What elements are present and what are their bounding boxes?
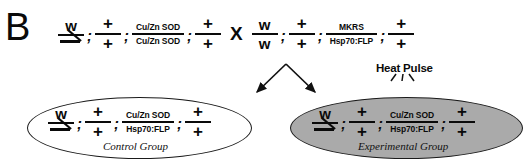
locus-separator: ; [121,27,132,44]
locus-chr2-wildtype: + + [349,104,375,140]
locus-chr2-wildtype: + + [85,104,111,140]
allele-bottom: + [453,124,471,140]
allele-bottom: + [89,124,107,140]
allele-top: Cu/Zn SOD [386,110,438,121]
experimental-group-caption: Experimental Group [358,140,448,152]
arrow-to-experimental-group [286,64,315,92]
allele-bottom: Hsp70:FLP [326,36,378,47]
allele-bottom: + [293,36,311,52]
locus-chr4-wildtype-right: + + [388,16,414,52]
locus-cuznsod-hsp70flp: Cu/Zn SOD Hsp70:FLP [122,110,174,135]
heat-pulse-tick-2 [402,74,403,81]
locus-separator: ; [111,115,122,132]
heat-pulse-tick-3 [409,74,414,81]
control-group-genotype: w ; + + ; Cu/Zn SOD Hsp70:FLP ; + + [48,104,211,140]
genetic-cross-figure: B w ; + + ; Cu/Zn SOD Cu/Zn SOD ; + + X [0,0,530,165]
locus-w-y: w [48,106,74,138]
locus-chr2-wildtype-right: + + [289,16,315,52]
arrow-to-control-group [257,64,286,92]
allele-top: w [255,17,275,32]
locus-cuznsod: Cu/Zn SOD Cu/Zn SOD [132,22,184,47]
allele-top: Cu/Zn SOD [132,22,184,33]
allele-bottom: Hsp70:FLP [386,124,438,135]
locus-cuznsod-hsp70flp: Cu/Zn SOD Hsp70:FLP [386,110,438,135]
allele-bottom: w [255,36,275,51]
locus-w-w: w w [252,17,278,51]
locus-separator: ; [74,115,85,132]
allele-bottom: + [353,124,371,140]
experimental-group-genotype: w ; + + ; Cu/Zn SOD Hsp70:FLP ; + + [312,104,475,140]
y-chromosome-icon [60,37,82,50]
allele-divider-bar [132,33,184,35]
locus-separator: ; [315,27,326,44]
locus-w-y: w [312,106,338,138]
locus-chr2-wildtype: + + [95,16,121,52]
locus-chr4-wildtype: + + [449,104,475,140]
heat-pulse-tick-1 [391,74,396,81]
control-group-caption: Control Group [103,140,168,152]
locus-separator: ; [375,115,386,132]
allele-top: Cu/Zn SOD [122,110,174,121]
locus-chr4-wildtype: + + [195,16,221,52]
locus-separator: ; [377,27,388,44]
allele-bottom: + [199,36,217,52]
allele-top: + [99,16,117,32]
allele-top: + [189,104,207,120]
allele-bottom: + [99,36,117,52]
allele-top: + [453,104,471,120]
allele-top: + [89,104,107,120]
allele-top: + [199,16,217,32]
allele-bottom: Cu/Zn SOD [132,36,184,47]
locus-separator: ; [174,115,185,132]
y-chromosome-icon [314,125,336,138]
locus-mkrs-hsp70flp: MKRS Hsp70:FLP [326,22,378,47]
allele-top: + [353,104,371,120]
locus-separator: ; [184,27,195,44]
allele-top: + [392,16,410,32]
allele-top: MKRS [335,22,368,33]
heat-pulse-label: Heat Pulse [376,62,433,74]
locus-separator: ; [438,115,449,132]
locus-separator: ; [84,27,95,44]
locus-separator: ; [278,27,289,44]
locus-w-y: w [58,18,84,50]
allele-bottom: + [392,36,410,52]
y-chromosome-icon [50,125,72,138]
cross-symbol: X [221,23,252,45]
allele-bottom: Hsp70:FLP [122,124,174,135]
allele-bottom: + [189,124,207,140]
panel-label: B [5,8,29,46]
locus-separator: ; [338,115,349,132]
locus-chr4-wildtype: + + [185,104,211,140]
allele-divider-bar [386,121,438,123]
allele-divider-bar [326,33,378,35]
allele-divider-bar [122,121,174,123]
parent-left-genotype: w ; + + ; Cu/Zn SOD Cu/Zn SOD ; + + X w … [58,16,414,52]
allele-top: + [293,16,311,32]
